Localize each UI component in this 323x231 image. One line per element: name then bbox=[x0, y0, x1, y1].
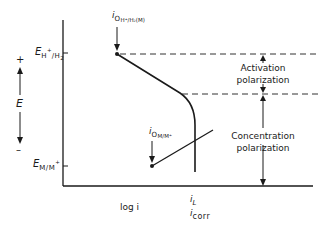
concentration-polarization-label: Concentration polarization bbox=[222, 130, 304, 154]
i-sub: O bbox=[152, 131, 158, 139]
x-axis-label: log i bbox=[120, 203, 139, 212]
e-hydrogen-label: EH+/H2 bbox=[35, 47, 64, 57]
activation-polarization-label: Activation polarization bbox=[226, 62, 300, 86]
arrowhead-icon bbox=[260, 179, 266, 186]
y-axis-label: E bbox=[16, 98, 23, 109]
cathodic-curve bbox=[117, 54, 195, 172]
label-line: polarization bbox=[226, 74, 300, 86]
i-limiting-label: iL bbox=[190, 194, 197, 204]
e-sup: + bbox=[47, 47, 52, 53]
i-sub: L bbox=[193, 199, 197, 207]
arrowhead-icon bbox=[114, 44, 120, 51]
label-line: polarization bbox=[222, 142, 304, 154]
exchange-point-hydrogen bbox=[115, 52, 119, 56]
y-minus-label: – bbox=[16, 145, 21, 155]
i-sub: corr bbox=[193, 212, 211, 221]
i-corr-label: icorr bbox=[190, 208, 210, 218]
arrowhead-down-icon bbox=[17, 137, 23, 144]
exchange-point-metal bbox=[150, 164, 154, 168]
e-sub: H bbox=[41, 52, 47, 60]
arrowhead-icon bbox=[260, 87, 266, 93]
i-subsub: M/M⁺ bbox=[158, 133, 172, 139]
i0-hydrogen-label: iOH⁺/H₂(M) bbox=[112, 10, 145, 20]
y-plus-label: + bbox=[16, 55, 24, 65]
e-sub: M/M bbox=[39, 164, 55, 172]
polarization-diagram bbox=[0, 0, 323, 231]
label-line: Concentration bbox=[222, 130, 304, 142]
arrowhead-icon bbox=[260, 55, 266, 61]
i0-metal-label: iOM/M⁺ bbox=[149, 126, 172, 136]
e-sup: + bbox=[55, 159, 60, 165]
label-line: Activation bbox=[226, 62, 300, 74]
arrowhead-up-icon bbox=[17, 67, 23, 74]
i-sub: O bbox=[115, 15, 121, 23]
e-tailsub: 2 bbox=[60, 55, 64, 61]
arrowhead-icon bbox=[149, 156, 155, 163]
i-subsub: H⁺/H₂(M) bbox=[121, 17, 145, 23]
e-metal-label: EM/M+ bbox=[33, 159, 60, 169]
